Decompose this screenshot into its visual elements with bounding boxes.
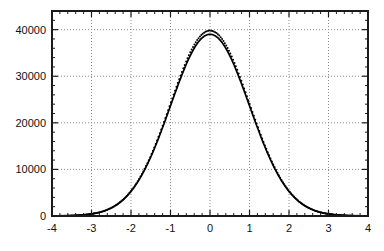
x-tick-label: -2 <box>126 222 136 234</box>
data-point-marker <box>218 35 220 37</box>
chart-figure: -4-3-2-101234 010000200003000040000 <box>0 0 384 251</box>
data-point-marker <box>222 40 224 42</box>
x-tick-label: 0 <box>207 222 213 234</box>
data-point-marker <box>220 36 222 38</box>
x-tick-label: 3 <box>325 222 331 234</box>
y-tick-label: 20000 <box>15 117 46 129</box>
data-point-marker <box>221 38 223 40</box>
x-tick-label: 4 <box>365 222 371 234</box>
x-tick-label: -1 <box>166 222 176 234</box>
x-tick-label: 1 <box>246 222 252 234</box>
gaussian-distribution-plot: -4-3-2-101234 010000200003000040000 <box>0 0 384 251</box>
y-tick-label: 10000 <box>15 163 46 175</box>
y-tick-label: 30000 <box>15 70 46 82</box>
y-tick-label: 40000 <box>15 24 46 36</box>
x-tick-label: -4 <box>47 222 57 234</box>
x-tick-label: 2 <box>286 222 292 234</box>
data-point-marker <box>199 36 201 38</box>
y-tick-label: 0 <box>40 210 46 222</box>
x-tick-label: -3 <box>87 222 97 234</box>
data-point-marker <box>195 41 197 43</box>
data-point-marker <box>196 39 198 41</box>
data-point-marker <box>224 42 226 44</box>
data-point-marker <box>198 37 200 39</box>
